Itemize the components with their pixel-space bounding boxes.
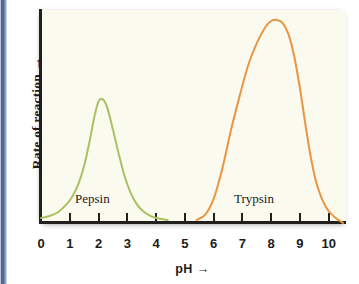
x-tick-label: 9: [287, 236, 313, 251]
x-tick-label: 10: [316, 236, 342, 251]
x-axis-tick-labels: 012345678910: [0, 236, 359, 254]
trypsin-series-label: Trypsin: [234, 191, 274, 207]
x-axis-label: pH →: [39, 262, 346, 276]
x-tick-label: 7: [229, 236, 255, 251]
pepsin-series-label: Pepsin: [75, 191, 110, 207]
x-tick-label: 2: [86, 236, 112, 251]
y-axis-label: Rate of reaction →: [29, 38, 45, 188]
x-tick-label: 8: [258, 236, 284, 251]
x-tick-label: 6: [201, 236, 227, 251]
x-tick-label: 3: [114, 236, 140, 251]
x-tick-label: 5: [172, 236, 198, 251]
x-tick-label: 0: [28, 236, 54, 251]
x-tick-label: 1: [57, 236, 83, 251]
x-tick-label: 4: [143, 236, 169, 251]
enzyme-ph-activity-figure: Rate of reaction → 012345678910 pH → Pep…: [0, 0, 359, 284]
